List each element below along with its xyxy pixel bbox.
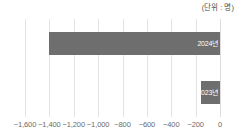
bar-label: 2024년: [197, 40, 220, 48]
gridline: [25, 19, 26, 117]
tick-label: −600: [139, 120, 156, 130]
zero-gridline: [220, 19, 221, 117]
bar-2023년: 2023년: [201, 81, 221, 104]
tick-label: −800: [114, 120, 131, 130]
tick-label: −200: [187, 120, 204, 130]
bar-label: 2023년: [201, 89, 221, 97]
plot-area: 2024년2023년: [25, 19, 220, 117]
tick-label: −400: [163, 120, 180, 130]
tick-label: −1,400: [38, 120, 61, 130]
bar-2024년: 2024년: [49, 32, 220, 55]
unit-caption: (단위 : 명): [202, 3, 234, 13]
horizontal-bar-chart: (단위 : 명) 2024년2023년 −1,600−1,400−1,200−1…: [0, 0, 240, 140]
tick-label: −1,600: [14, 120, 37, 130]
x-axis-tick-labels: −1,600−1,400−1,200−1,000−800−600−400−200…: [0, 120, 240, 134]
tick-label: −1,000: [87, 120, 110, 130]
tick-label: 0: [218, 120, 222, 130]
tick-label: −1,200: [62, 120, 85, 130]
